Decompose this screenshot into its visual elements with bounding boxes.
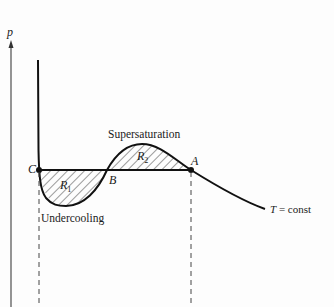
isotherm-diagram: p C B A R1 R2 Supersaturation Undercooli…	[0, 0, 334, 307]
label-point-a: A	[191, 154, 198, 169]
label-undercooling: Undercooling	[41, 212, 104, 224]
axis-label-p: p	[7, 25, 13, 40]
label-supersaturation: Supersaturation	[108, 128, 180, 140]
region-r2	[107, 144, 191, 170]
label-region-r2: R2	[137, 149, 148, 165]
r1-subscript: 1	[67, 185, 71, 194]
label-point-b: B	[109, 173, 116, 188]
label-region-r1: R1	[60, 178, 71, 194]
diagram-svg	[0, 0, 334, 307]
isotherm-const: = const	[276, 203, 311, 215]
r2-subscript: 2	[144, 156, 148, 165]
p-axis-arrow-icon	[9, 40, 14, 48]
label-isotherm: T = const	[270, 203, 311, 215]
label-point-c: C	[28, 162, 36, 177]
